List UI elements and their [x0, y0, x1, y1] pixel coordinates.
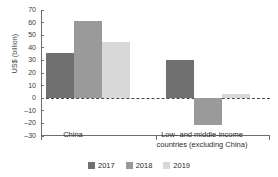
category-label-line: China [8, 130, 138, 140]
legend-swatch-icon [88, 162, 95, 169]
y-tick-label: –10 [24, 106, 36, 115]
y-tick-label: –20 [24, 118, 36, 127]
legend-item-2019[interactable]: 2019 [163, 161, 190, 170]
y-tick-label: 20 [28, 68, 36, 77]
category-label-lmic: Low- and middle-incomecountries (excludi… [128, 130, 276, 150]
y-tick-mark [41, 60, 44, 61]
bar-chart: US$ (billion) 706050403020100–10–20–30 C… [0, 0, 278, 177]
y-tick-mark [41, 123, 44, 124]
y-tick-mark [41, 22, 44, 23]
y-tick-mark [41, 98, 44, 99]
legend-label: 2018 [136, 161, 153, 170]
y-tick-mark [41, 47, 44, 48]
category-label-china: China [8, 130, 138, 140]
y-tick-label: 0 [32, 93, 36, 102]
y-tick-mark [41, 85, 44, 86]
bar-2017-cat0 [46, 53, 74, 98]
y-tick-label: 70 [28, 5, 36, 14]
bar-2019-cat1 [222, 94, 250, 98]
legend-item-2017[interactable]: 2017 [88, 161, 115, 170]
y-tick-mark [41, 35, 44, 36]
y-tick-mark [41, 10, 44, 11]
y-tick-label: 40 [28, 43, 36, 52]
legend-item-2018[interactable]: 2018 [126, 161, 153, 170]
plot-area: 706050403020100–10–20–30 [41, 10, 270, 136]
y-tick-label: 10 [28, 81, 36, 90]
bar-2019-cat0 [102, 42, 130, 99]
category-label-line: Low- and middle-income [128, 130, 276, 140]
y-tick-label: 50 [28, 30, 36, 39]
y-tick-label: 30 [28, 55, 36, 64]
bar-2018-cat1 [194, 98, 222, 124]
legend-swatch-icon [163, 162, 170, 169]
category-label-line: countries (excluding China) [128, 140, 276, 150]
y-tick-label: 60 [28, 18, 36, 27]
y-tick-mark [41, 110, 44, 111]
bar-2017-cat1 [166, 60, 194, 98]
chart-legend: 201720182019 [0, 161, 278, 170]
legend-label: 2019 [173, 161, 190, 170]
zero-reference-line [41, 98, 270, 99]
bar-2018-cat0 [74, 21, 102, 98]
legend-swatch-icon [126, 162, 133, 169]
legend-label: 2017 [98, 161, 115, 170]
y-tick-mark [41, 73, 44, 74]
y-axis-title: US$ (billion) [11, 14, 18, 94]
